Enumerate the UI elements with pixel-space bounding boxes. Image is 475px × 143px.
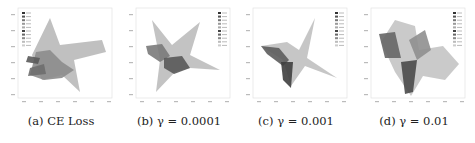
- x-tick-label: [140, 101, 144, 102]
- legend-label: [222, 23, 227, 24]
- legend-label: [457, 31, 462, 32]
- x-tick-label: [157, 101, 161, 102]
- legend-label: [26, 34, 31, 35]
- y-tick-label: [364, 62, 368, 63]
- x-tick-label: [274, 101, 278, 102]
- legend-marker: [218, 44, 221, 46]
- y-tick-label: [11, 14, 15, 15]
- legend-marker: [453, 41, 456, 43]
- y-tick-label: [364, 78, 368, 79]
- y-tick-label: [364, 46, 368, 47]
- x-tick-label: [73, 101, 77, 102]
- legend-label: [222, 41, 227, 42]
- legend-label: [222, 45, 227, 46]
- legend-label: [26, 41, 31, 42]
- x-tick-label: [191, 101, 195, 102]
- legend-marker: [335, 16, 338, 18]
- legend-marker: [335, 19, 338, 21]
- legend-label: [457, 34, 462, 35]
- caption-a: (a) CE Loss: [2, 114, 120, 128]
- x-tick-label: [208, 101, 212, 102]
- y-tick-label: [129, 94, 133, 95]
- legend-marker: [453, 34, 456, 36]
- legend-label: [457, 38, 462, 39]
- y-tick-label: [246, 78, 250, 79]
- legend-marker: [453, 23, 456, 25]
- legend-label: [339, 34, 344, 35]
- legend-marker: [218, 41, 221, 43]
- scatter-plot-d: [355, 0, 473, 110]
- panel-c: (c) γ = 0.001: [237, 0, 355, 143]
- legend-label: [457, 13, 462, 14]
- scatter-plot-a: [2, 0, 120, 110]
- legend-marker: [335, 41, 338, 43]
- legend-marker: [22, 30, 25, 32]
- legend-marker: [335, 12, 338, 14]
- legend-label: [26, 38, 31, 39]
- legend-marker: [22, 23, 25, 25]
- y-tick-label: [364, 30, 368, 31]
- y-tick-label: [11, 30, 15, 31]
- y-tick-label: [246, 30, 250, 31]
- legend-label: [222, 31, 227, 32]
- legend-label: [339, 45, 344, 46]
- legend-marker: [22, 26, 25, 28]
- legend-marker: [218, 19, 221, 21]
- legend-marker: [453, 16, 456, 18]
- legend-label: [26, 31, 31, 32]
- legend-label: [26, 13, 31, 14]
- legend-marker: [453, 44, 456, 46]
- legend-marker: [22, 41, 25, 43]
- legend-marker: [22, 16, 25, 18]
- legend-marker: [453, 30, 456, 32]
- legend-label: [339, 16, 344, 17]
- x-tick-label: [174, 101, 178, 102]
- legend-marker: [335, 23, 338, 25]
- legend-marker: [335, 26, 338, 28]
- x-tick-label: [56, 101, 60, 102]
- legend-marker: [218, 37, 221, 39]
- x-tick-label: [460, 101, 464, 102]
- legend-marker: [335, 30, 338, 32]
- x-tick-label: [342, 101, 346, 102]
- legend-label: [26, 45, 31, 46]
- y-tick-label: [129, 14, 133, 15]
- legend-label: [222, 38, 227, 39]
- legend-label: [339, 38, 344, 39]
- y-tick-label: [129, 46, 133, 47]
- legend-label: [339, 13, 344, 14]
- y-tick-label: [129, 30, 133, 31]
- legend-label: [339, 23, 344, 24]
- legend-label: [457, 16, 462, 17]
- legend-marker: [22, 37, 25, 39]
- y-tick-label: [246, 62, 250, 63]
- legend-marker: [22, 12, 25, 14]
- y-tick-label: [11, 78, 15, 79]
- legend-label: [339, 27, 344, 28]
- x-tick-label: [409, 101, 413, 102]
- legend-label: [222, 27, 227, 28]
- legend-label: [457, 23, 462, 24]
- legend-marker: [22, 44, 25, 46]
- y-tick-label: [129, 78, 133, 79]
- legend-marker: [218, 23, 221, 25]
- scatter-plot-b: [120, 0, 238, 110]
- legend-label: [457, 27, 462, 28]
- legend-marker: [335, 37, 338, 39]
- legend-marker: [218, 16, 221, 18]
- legend-marker: [22, 19, 25, 21]
- class-cluster-2: [281, 62, 293, 88]
- legend-label: [339, 20, 344, 21]
- legend-label: [457, 41, 462, 42]
- x-tick-label: [443, 101, 447, 102]
- legend-marker: [453, 37, 456, 39]
- caption-b: (b) γ = 0.0001: [120, 114, 238, 128]
- legend-marker: [453, 12, 456, 14]
- caption-c: (c) γ = 0.001: [237, 114, 355, 128]
- y-tick-label: [246, 14, 250, 15]
- legend-label: [26, 27, 31, 28]
- x-tick-label: [426, 101, 430, 102]
- caption-d: (d) γ = 0.01: [355, 114, 473, 128]
- legend-marker: [22, 34, 25, 36]
- legend-marker: [218, 30, 221, 32]
